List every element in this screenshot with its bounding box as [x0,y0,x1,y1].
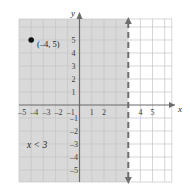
y-tick-label: –5 [69,166,78,175]
x-axis-label: x [177,104,182,114]
y-tick-label: –3 [69,140,78,149]
y-tick-label: –4 [69,153,78,162]
x-tick-label: –3 [42,108,51,117]
x-tick-label: 5 [151,108,155,117]
x-tick-label: 2 [102,108,106,117]
y-tick-label: 3 [72,62,76,71]
y-tick-label: 4 [72,49,76,58]
y-tick-label: –2 [69,127,78,136]
x-tick-label: 4 [138,108,142,117]
y-axis-arrow [77,12,83,19]
point-coordinate-label: (–4, 5) [37,39,60,49]
y-tick-label: –1 [69,114,78,123]
x-tick-label: –5 [17,108,26,117]
coordinate-plane-svg: –5 –4 –3 –2 –1 1 2 4 5 5 4 3 2 1 –1 –2 –… [0,0,190,195]
y-tick-label: 1 [72,88,76,97]
y-tick-label: 2 [72,75,76,84]
x-tick-label: –4 [29,108,38,117]
y-axis-label: y [70,8,75,18]
y-tick-label: 5 [72,36,76,45]
x-tick-label: –2 [54,108,63,117]
plotted-point [28,37,34,43]
inequality-graph-figure: –5 –4 –3 –2 –1 1 2 4 5 5 4 3 2 1 –1 –2 –… [0,0,190,195]
inequality-region-label: x < 3 [26,140,47,150]
x-tick-label: 1 [90,108,94,117]
